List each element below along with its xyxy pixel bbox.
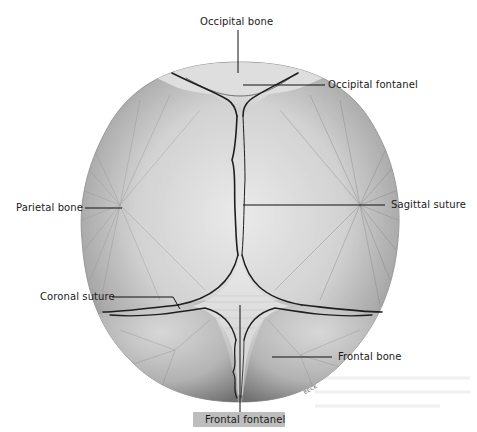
label-parietal-bone: Parietal bone bbox=[16, 202, 83, 214]
label-frontal-fontanel: Frontal fontanel bbox=[205, 414, 285, 426]
label-occipital-fontanel: Occipital fontanel bbox=[328, 79, 418, 91]
label-sagittal-suture: Sagittal suture bbox=[391, 199, 466, 211]
label-frontal-bone: Frontal bone bbox=[338, 351, 402, 363]
skull-illustration bbox=[0, 0, 477, 432]
skull-diagram: Occipital bone Occipital fontanel Pariet… bbox=[0, 0, 477, 432]
label-coronal-suture: Coronal suture bbox=[40, 291, 115, 303]
label-occipital-bone: Occipital bone bbox=[200, 16, 273, 28]
